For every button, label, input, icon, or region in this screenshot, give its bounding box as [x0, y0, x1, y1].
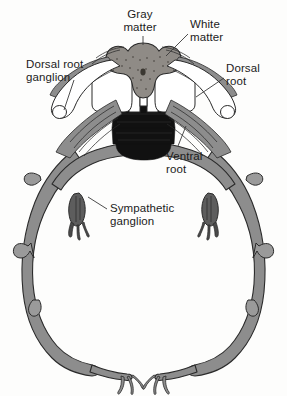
label-gray-matter: Gray matter [110, 8, 170, 33]
leader-ventral-root [178, 126, 186, 146]
left-branch-lower [29, 300, 42, 316]
label-dorsal-root-ganglion: Dorsal root ganglion [26, 58, 83, 83]
label-ventral-root: Ventral root [166, 150, 203, 175]
sympathetic-ganglion-left [69, 193, 90, 240]
right-branch-upper [246, 173, 263, 185]
anatomy-figure: .nv{fill:#8d8d8d;stroke:#2a2a2a;stroke-w… [0, 0, 287, 396]
label-dorsal-root: Dorsal root [226, 62, 260, 87]
left-branch-upper [24, 173, 41, 185]
right-branch-lower [246, 300, 259, 316]
left-terminal-branch [90, 365, 144, 395]
label-sympathetic-ganglion: Sympathetic ganglion [110, 202, 174, 227]
label-white-matter: White matter [190, 18, 223, 43]
right-terminal-branch [143, 365, 197, 395]
sympathetic-ganglion-right [198, 193, 219, 240]
leader-sympathetic-ganglion [88, 197, 107, 209]
